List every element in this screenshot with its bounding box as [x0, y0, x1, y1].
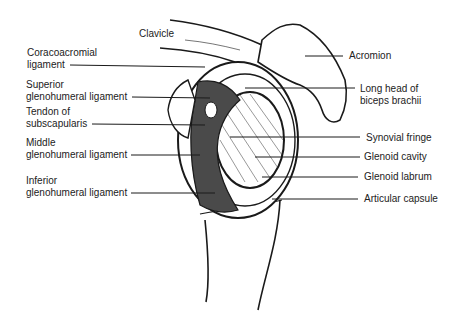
label-text: Coracoacromial	[27, 47, 97, 59]
label-text: Middle	[26, 137, 127, 149]
label-glenoid-labrum: Glenoid labrum	[364, 171, 432, 183]
clavicle-shape	[160, 20, 262, 62]
label-middle-glenohumeral-ligament: Middleglenohumeral ligament	[26, 137, 127, 161]
label-text: ligament	[27, 59, 97, 71]
label-text: Synovial fringe	[366, 132, 432, 143]
label-articular-capsule: Articular capsule	[364, 193, 438, 205]
label-text: Long head of	[360, 83, 421, 95]
label-coracoacromial-ligament: Coracoacromialligament	[27, 47, 97, 71]
diagram-canvas: Clavicle Coracoacromialligament Superior…	[0, 0, 462, 320]
label-text: Superior	[26, 79, 127, 91]
label-synovial-fringe: Synovial fringe	[366, 132, 432, 144]
label-acromion: Acromion	[349, 50, 391, 62]
label-inferior-glenohumeral-ligament: Inferiorglenohumeral ligament	[26, 175, 127, 199]
label-text: subscapularis	[26, 118, 87, 130]
label-text: Articular capsule	[364, 193, 438, 204]
foramen	[205, 102, 217, 118]
label-text: biceps brachii	[360, 95, 421, 107]
label-text: Clavicle	[139, 28, 174, 39]
label-long-head-of-biceps-brachii: Long head ofbiceps brachii	[360, 83, 421, 107]
label-clavicle: Clavicle	[139, 28, 174, 40]
label-text: glenohumeral ligament	[26, 149, 127, 161]
label-text: Glenoid labrum	[364, 171, 432, 182]
label-text: Glenoid cavity	[364, 151, 427, 162]
label-superior-glenohumeral-ligament: Superiorglenohumeral ligament	[26, 79, 127, 103]
label-text: Tendon of	[26, 106, 87, 118]
label-text: glenohumeral ligament	[26, 187, 127, 199]
label-tendon-of-subscapularis: Tendon ofsubscapularis	[26, 106, 87, 130]
label-text: Inferior	[26, 175, 127, 187]
label-text: Acromion	[349, 50, 391, 61]
label-glenoid-cavity: Glenoid cavity	[364, 151, 427, 163]
label-text: glenohumeral ligament	[26, 91, 127, 103]
